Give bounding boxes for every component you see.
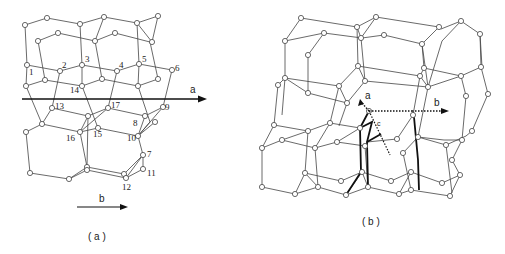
node-label-14: 14 xyxy=(70,85,80,95)
node-label-12: 12 xyxy=(122,182,131,192)
panel-b-nodes xyxy=(259,14,490,198)
panel-b-axis-b-label: b xyxy=(434,97,440,108)
figure: a b 1 2 3 4 5 6 7 8 9 10 11 12 13 14 15 … xyxy=(0,0,505,254)
panel-a-nodes xyxy=(22,13,174,181)
panel-a-caption: ( a ) xyxy=(88,231,106,242)
panel-b-highlighted-path xyxy=(346,111,419,195)
node-label-6: 6 xyxy=(175,63,180,73)
node-label-16: 16 xyxy=(66,133,76,143)
node-label-1: 1 xyxy=(29,67,34,77)
node-label-15: 15 xyxy=(93,129,103,139)
node-label-17: 17 xyxy=(111,100,121,110)
node-label-3: 3 xyxy=(85,54,90,64)
node-label-10: 10 xyxy=(127,133,137,143)
node-label-11: 11 xyxy=(147,168,156,178)
axis-a-label: a xyxy=(190,84,196,95)
panel-b-axis-a-label: a xyxy=(365,90,371,101)
node-label-9: 9 xyxy=(165,102,170,112)
panel-b-caption: ( b ) xyxy=(362,216,380,227)
node-label-4: 4 xyxy=(119,60,124,70)
node-label-13: 13 xyxy=(55,101,65,111)
node-label-5: 5 xyxy=(142,54,147,64)
panel-b-network xyxy=(262,17,488,196)
panel-b-axis-c-label: c xyxy=(377,120,381,127)
node-label-2: 2 xyxy=(62,60,67,70)
panel-a-axis-b: b xyxy=(77,193,128,210)
axis-b-label: b xyxy=(99,193,105,204)
node-label-7: 7 xyxy=(147,149,152,159)
node-label-8: 8 xyxy=(133,118,138,128)
